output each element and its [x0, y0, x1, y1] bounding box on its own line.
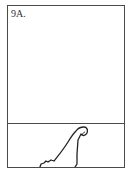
panel-label: 9A.: [11, 8, 26, 20]
bowing-figure-icon: [8, 124, 124, 167]
panel-frame: 9A.: [7, 5, 125, 168]
